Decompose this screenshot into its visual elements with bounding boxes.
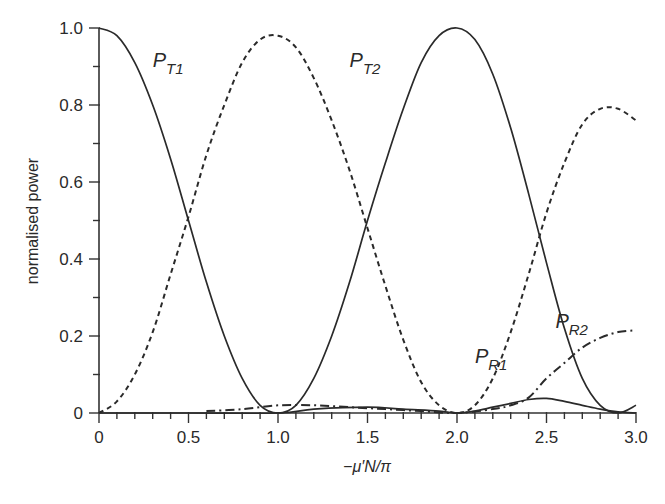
y-tick-label: 0.8 (59, 96, 83, 115)
x-tick-label: 0.5 (177, 428, 201, 447)
y-tick-label: 0.6 (59, 173, 83, 192)
series-label-p-t2: PT2 (350, 49, 382, 77)
y-tick-label: 0.2 (59, 327, 83, 346)
x-tick-label: 3.0 (624, 428, 648, 447)
series-line-p-t1 (99, 28, 636, 413)
x-tick-label: 2.5 (535, 428, 559, 447)
x-axis-title: −μ′N/π (343, 458, 391, 475)
series-line-p-r2 (206, 330, 636, 413)
x-tick-label: 2.0 (445, 428, 469, 447)
series-line-p-r1 (99, 398, 636, 413)
y-axis-title: normalised power (24, 157, 41, 284)
series-line-p-t2 (99, 35, 636, 413)
y-tick-label: 1.0 (59, 19, 83, 38)
x-tick-label: 0 (94, 428, 103, 447)
x-tick-label: 1.0 (266, 428, 290, 447)
series-label-p-t1: PT1 (153, 49, 184, 77)
y-tick-label: 0 (74, 404, 83, 423)
y-tick-label: 0.4 (59, 250, 83, 269)
axes: 00.51.01.52.02.53.000.20.40.60.81.0 (59, 19, 647, 447)
series-label-p-r1: PR1 (475, 345, 508, 373)
x-tick-label: 1.5 (356, 428, 380, 447)
series-label-p-r2: PR2 (555, 310, 588, 338)
chart: 00.51.01.52.02.53.000.20.40.60.81.0 PT1P… (0, 0, 665, 504)
plot-area (99, 28, 636, 413)
